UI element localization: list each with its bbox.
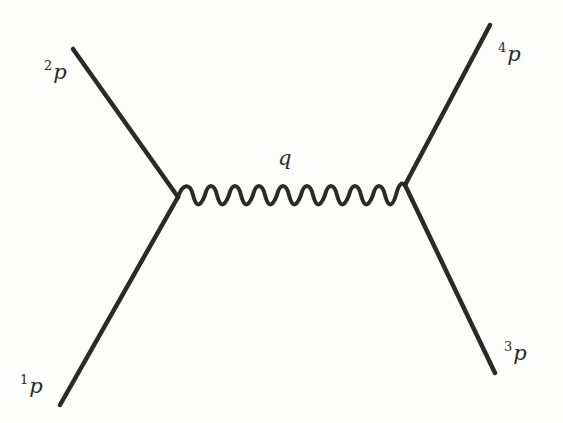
label-p2-symbol: p [53, 60, 66, 84]
line-p1 [60, 197, 178, 405]
label-p2: 2p [44, 58, 67, 84]
label-p3-index: 3 [504, 339, 512, 354]
label-p2-index: 2 [44, 58, 52, 73]
label-q-symbol: q [278, 146, 291, 170]
label-p3: 3p [504, 339, 527, 365]
label-p1-symbol: p [29, 374, 42, 398]
wavy-propagator [178, 184, 405, 205]
label-p1: 1p [20, 372, 43, 398]
label-q: q [278, 146, 291, 170]
label-p4-index: 4 [498, 40, 506, 55]
label-p3-symbol: p [513, 341, 526, 365]
feynman-diagram [0, 0, 563, 423]
label-p1-index: 1 [20, 372, 28, 387]
line-p2 [73, 49, 178, 197]
diagram-canvas: 2p 4p 1p 3p q [0, 0, 563, 423]
label-p4-symbol: p [507, 42, 520, 66]
label-p4: 4p [498, 40, 521, 66]
line-p4 [405, 25, 490, 185]
line-p3 [405, 185, 495, 373]
